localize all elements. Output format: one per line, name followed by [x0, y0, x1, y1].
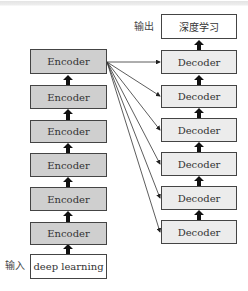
thick-arrow-up-icon — [63, 109, 73, 120]
arrow-to-decoder-2 — [107, 62, 160, 96]
thick-arrow-up-icon — [194, 108, 204, 118]
thick-arrow-up-icon — [63, 177, 73, 187]
encoder-box-2: Encoder — [30, 85, 107, 109]
output-box: 深度学习 — [161, 14, 237, 39]
arrow-to-decoder-6 — [107, 62, 160, 232]
encoder-box-1: Encoder — [30, 49, 107, 74]
encoder-box-5: Encoder — [30, 187, 107, 211]
encoder-box-4: Encoder — [30, 153, 107, 177]
thick-arrow-up-icon — [63, 143, 73, 153]
encoder-box-3: Encoder — [30, 120, 107, 143]
thick-arrow-up-icon — [194, 142, 204, 152]
decoder-box-3: Decoder — [161, 118, 237, 142]
thick-arrow-up-icon — [63, 244, 73, 254]
arrow-to-decoder-3 — [107, 62, 160, 130]
arrow-to-decoder-4 — [107, 62, 160, 164]
thick-arrow-up-icon — [194, 210, 204, 220]
arrow-to-decoder-5 — [107, 62, 160, 198]
input-box: deep learning — [30, 254, 107, 279]
encoder-box-6: Encoder — [30, 222, 107, 245]
cross-attention-arrows — [107, 62, 160, 232]
input-label: 输入 — [5, 257, 25, 272]
thick-arrow-up-icon — [194, 176, 204, 186]
decoder-box-6: Decoder — [161, 220, 237, 244]
decoder-box-1: Decoder — [161, 50, 237, 74]
thick-arrow-up-icon — [63, 75, 73, 85]
thick-arrow-up-icon — [194, 40, 204, 50]
thick-arrow-up-icon — [194, 75, 204, 85]
output-label: 输出 — [134, 18, 154, 33]
decoder-box-2: Decoder — [161, 85, 237, 108]
thick-arrow-up-icon — [63, 211, 73, 222]
decoder-box-4: Decoder — [161, 152, 237, 176]
decoder-box-5: Decoder — [161, 186, 237, 210]
connector-layer — [0, 0, 248, 291]
